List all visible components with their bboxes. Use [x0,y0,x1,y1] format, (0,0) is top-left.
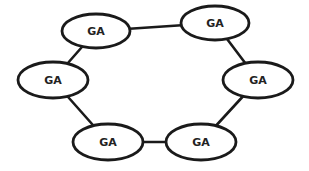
node-label: GA [206,17,224,30]
node-right: GA [223,62,293,98]
node-label: GA [249,74,267,87]
node-bottom-left: GA [73,124,143,160]
node-label: GA [99,136,117,149]
nodes: GA GA GA GA GA GA [18,6,293,160]
ring-diagram: GA GA GA GA GA GA [0,0,309,171]
node-top-right: GA [181,6,249,40]
node-left: GA [18,62,88,98]
node-label: GA [192,136,210,149]
node-label: GA [44,74,62,87]
node-top-left: GA [62,14,130,48]
node-label: GA [87,25,105,38]
node-bottom-right: GA [166,124,236,160]
